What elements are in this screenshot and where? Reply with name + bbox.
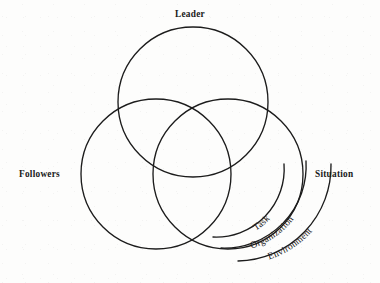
arc-task [213,164,284,237]
bracket-labels-group: Task Organization Environment [248,212,314,261]
label-situation: Situation [315,169,354,179]
venn-diagram-figure: Leader Followers Situation Task Organiza… [0,0,380,283]
label-followers: Followers [19,169,60,179]
circle-followers [81,99,231,249]
label-task: Task [251,212,272,232]
label-leader: Leader [175,9,205,19]
venn-circles-group [81,27,303,249]
circle-leader [118,27,268,177]
venn-diagram-canvas: Leader Followers Situation Task Organiza… [0,0,380,283]
label-task-text: Task [251,212,272,232]
